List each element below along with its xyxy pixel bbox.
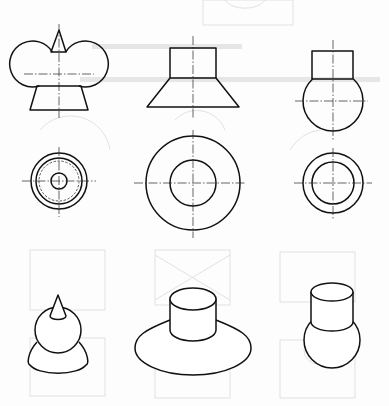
front-view-a	[10, 24, 109, 118]
cylinder-outline	[312, 51, 353, 79]
sphere-outline	[10, 41, 53, 87]
technical-drawing	[0, 0, 389, 406]
cylinder-top-face	[311, 283, 353, 301]
column-c	[294, 40, 372, 368]
top-view-b	[134, 130, 246, 238]
sphere-outline	[66, 41, 109, 87]
cone-outline	[51, 30, 66, 52]
iso-view-a	[28, 295, 87, 373]
column-b	[134, 36, 251, 375]
iso-view-b	[135, 288, 251, 375]
iso-view-c	[304, 283, 360, 368]
top-view-a	[22, 147, 96, 217]
top-view-c	[294, 148, 372, 220]
front-view-c	[295, 40, 368, 140]
cylinder-top-face	[170, 288, 216, 310]
drawing-sheet	[0, 0, 389, 406]
front-view-b	[147, 36, 239, 119]
column-a	[10, 24, 109, 373]
